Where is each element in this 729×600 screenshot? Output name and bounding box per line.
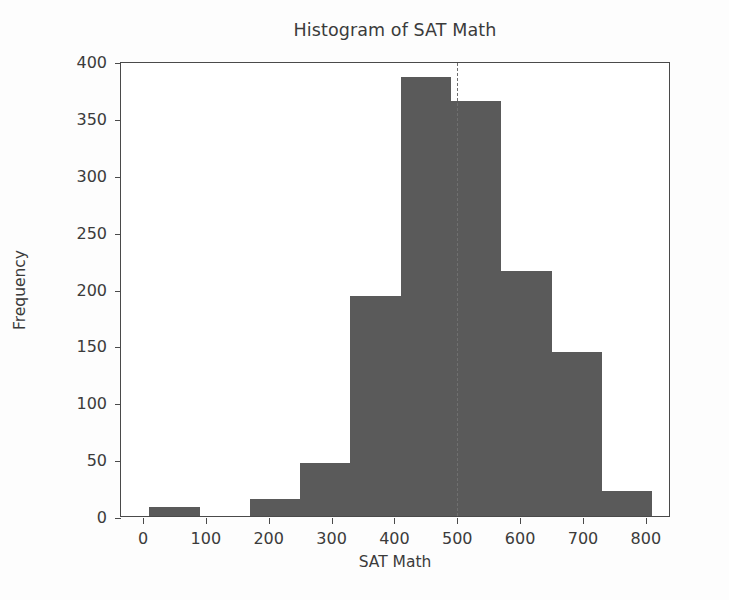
y-tick-label: 250 (53, 224, 107, 243)
x-tick-label: 400 (364, 529, 424, 548)
histogram-bars (121, 63, 669, 516)
y-tick-mark (115, 291, 121, 292)
y-tick-label: 100 (53, 394, 107, 413)
y-tick-mark (115, 120, 121, 121)
plot-area: 0100200300400500600700800050100150200250… (120, 62, 670, 517)
y-tick-mark (115, 518, 121, 519)
x-tick-label: 500 (427, 529, 487, 548)
histogram-bar (501, 271, 551, 516)
x-axis-label: SAT Math (120, 553, 670, 571)
x-tick-label: 200 (239, 529, 299, 548)
histogram-bar (350, 296, 400, 516)
x-tick-mark (332, 518, 333, 524)
y-tick-mark (115, 234, 121, 235)
histogram-bar (149, 507, 199, 516)
histogram-bar (300, 463, 350, 516)
x-tick-label: 300 (302, 529, 362, 548)
x-tick-label: 0 (113, 529, 173, 548)
figure-canvas: Histogram of SAT Math 010020030040050060… (0, 0, 729, 600)
y-tick-mark (115, 63, 121, 64)
x-tick-mark (394, 518, 395, 524)
histogram-bar (401, 77, 451, 516)
y-tick-label: 350 (53, 110, 107, 129)
x-tick-mark (520, 518, 521, 524)
x-tick-mark (646, 518, 647, 524)
y-tick-label: 50 (53, 451, 107, 470)
y-tick-label: 150 (53, 337, 107, 356)
mean-line-marker (457, 63, 458, 516)
y-tick-label: 300 (53, 167, 107, 186)
y-tick-mark (115, 177, 121, 178)
x-tick-mark (457, 518, 458, 524)
histogram-bar (552, 352, 602, 516)
page-title: Histogram of SAT Math (120, 20, 670, 40)
x-tick-mark (143, 518, 144, 524)
y-tick-mark (115, 461, 121, 462)
y-tick-mark (115, 347, 121, 348)
x-tick-label: 700 (553, 529, 613, 548)
x-tick-label: 600 (490, 529, 550, 548)
x-tick-label: 100 (176, 529, 236, 548)
y-axis-label: Frequency (10, 62, 30, 517)
x-tick-label: 800 (616, 529, 676, 548)
x-tick-mark (206, 518, 207, 524)
y-tick-label: 200 (53, 281, 107, 300)
y-tick-mark (115, 404, 121, 405)
histogram-bar (602, 491, 652, 516)
histogram-bar (250, 499, 300, 516)
y-tick-label: 0 (53, 508, 107, 527)
y-axis-label-text: Frequency (11, 249, 29, 329)
x-tick-mark (269, 518, 270, 524)
y-tick-label: 400 (53, 53, 107, 72)
x-tick-mark (583, 518, 584, 524)
histogram-bar (451, 101, 501, 516)
